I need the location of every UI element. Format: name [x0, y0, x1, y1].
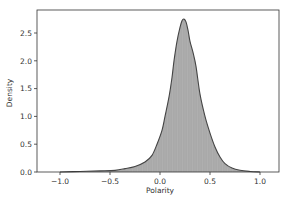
- y-tick-label: 2.5: [20, 29, 32, 38]
- y-tick-label: 1.5: [20, 84, 32, 93]
- plot-area: [60, 19, 260, 172]
- x-axis: −1.0−0.50.00.51.0: [51, 172, 266, 186]
- y-tick-label: 0.0: [20, 168, 32, 177]
- y-tick-label: 2.0: [20, 57, 32, 66]
- y-axis: 0.00.51.01.52.02.5: [20, 29, 37, 177]
- x-tick-label: −1.0: [51, 177, 69, 186]
- x-tick-label: 1.0: [254, 177, 266, 186]
- x-tick-label: −0.5: [101, 177, 119, 186]
- density-chart: −1.0−0.50.00.51.0 0.00.51.01.52.02.5 Pol…: [0, 0, 288, 205]
- x-tick-label: 0.0: [154, 177, 166, 186]
- y-tick-label: 1.0: [20, 112, 32, 121]
- x-axis-label: Polarity: [146, 186, 175, 195]
- x-tick-label: 0.5: [204, 177, 216, 186]
- y-tick-label: 0.5: [20, 140, 32, 149]
- y-axis-label: Density: [5, 78, 14, 107]
